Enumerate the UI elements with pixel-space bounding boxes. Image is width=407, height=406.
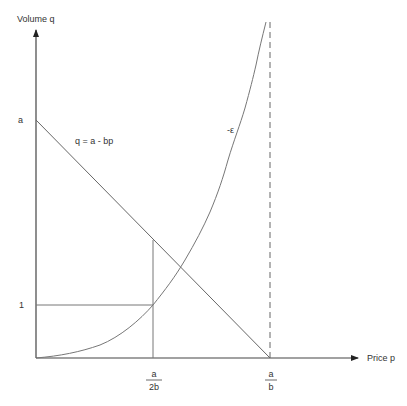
demand-line-label: q = a - bp bbox=[75, 136, 113, 146]
x-axis-label: Price p bbox=[367, 353, 395, 363]
elasticity-curve bbox=[36, 22, 266, 358]
y-tick-1: 1 bbox=[19, 300, 24, 310]
x-tick-numerator: a bbox=[151, 369, 156, 379]
elasticity-curve-label: -ε bbox=[227, 125, 234, 135]
x-tick-numerator: a bbox=[268, 369, 273, 379]
x-tick-a-over-2b: a 2b bbox=[146, 369, 162, 392]
x-tick-a-over-b: a b bbox=[265, 369, 277, 392]
x-tick-denominator: b bbox=[268, 382, 273, 392]
y-axis-label: Volume q bbox=[17, 14, 55, 24]
x-tick-denominator: 2b bbox=[149, 382, 159, 392]
diagram-canvas: Volume q Price p a 1 a 2b a b q = a - bp… bbox=[0, 0, 407, 406]
y-tick-a: a bbox=[18, 115, 23, 125]
